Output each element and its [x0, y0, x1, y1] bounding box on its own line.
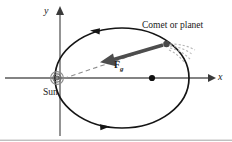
orbit-diagram-figure: y x Sun Comet or planet Fg [0, 0, 232, 142]
comet-label: Comet or planet [142, 21, 203, 31]
second-focus-dot [149, 75, 155, 81]
sun-icon [49, 70, 65, 86]
x-axis [5, 74, 216, 82]
comet-tail-icon [169, 44, 195, 63]
force-label: Fg [114, 60, 124, 73]
force-label-subscript: g [120, 65, 124, 73]
force-vector-fg [100, 45, 163, 66]
x-axis-label: x [218, 72, 222, 82]
comet-body-dot [163, 41, 170, 48]
y-axis-label: y [44, 6, 48, 16]
sun-label: Sun [43, 88, 58, 98]
